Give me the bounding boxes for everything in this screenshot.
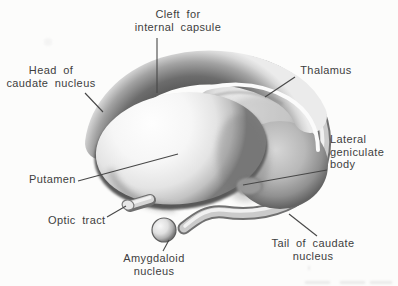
label-optic-tract: Optic tract <box>48 214 106 227</box>
scan-smudge <box>44 38 52 46</box>
label-tail-of-caudate-nucleus: Tail of caudate nucleus <box>272 237 355 262</box>
figure-canvas: Cleft for internal capsuleHead of caudat… <box>0 0 398 286</box>
lateral-geniculate-body-shape <box>236 177 262 195</box>
amygdaloid-nucleus-shape <box>152 218 176 242</box>
label-head-of-caudate-nucleus: Head of caudate nucleus <box>6 64 95 89</box>
label-amygdaloid-nucleus: Amygdaloid nucleus <box>123 252 184 277</box>
label-thalamus: Thalamus <box>300 64 352 77</box>
label-cleft-for-internal-capsule: Cleft for internal capsule <box>135 8 221 33</box>
label-lateral-geniculate-body: Lateral geniculate body <box>330 133 384 171</box>
label-putamen: Putamen <box>29 173 76 186</box>
